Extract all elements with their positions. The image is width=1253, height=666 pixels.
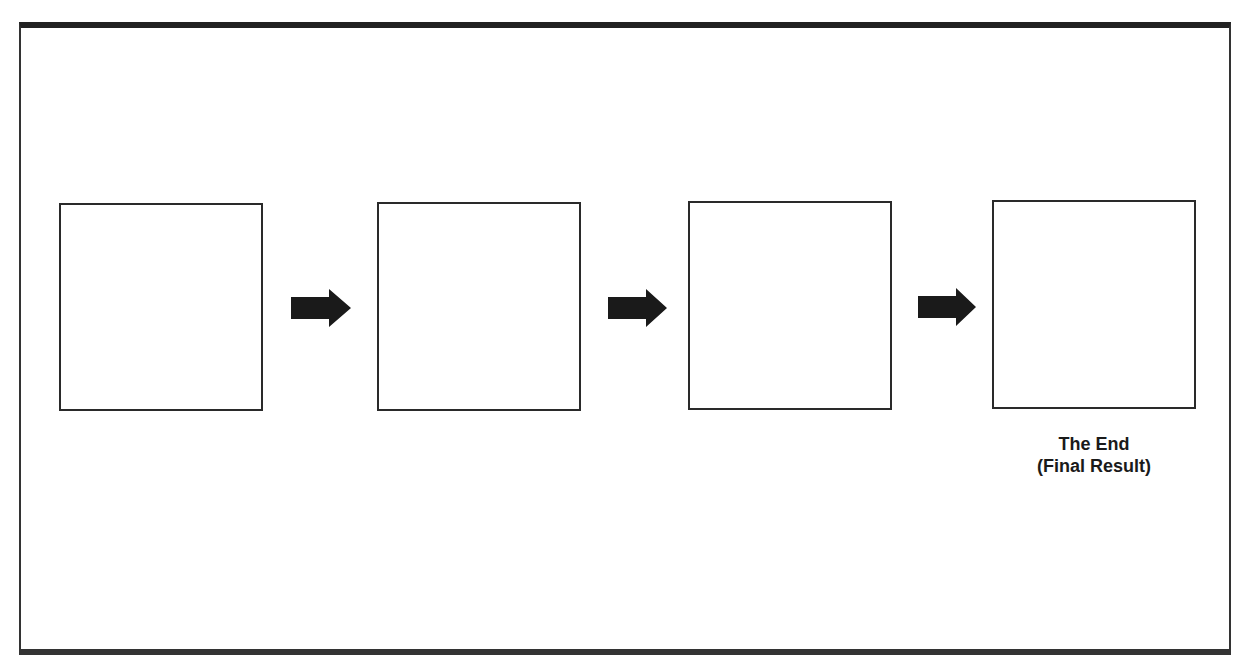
step-box-3 xyxy=(688,201,892,410)
caption-line-2: (Final Result) xyxy=(992,455,1196,477)
right-arrow-icon xyxy=(918,288,976,326)
caption-line-1: The End xyxy=(992,433,1196,455)
right-arrow-icon xyxy=(291,289,351,327)
step-box-4-final xyxy=(992,200,1196,409)
right-arrow-icon xyxy=(608,289,667,327)
final-result-caption: The End (Final Result) xyxy=(992,433,1196,477)
step-box-2 xyxy=(377,202,581,411)
step-box-1 xyxy=(59,203,263,411)
